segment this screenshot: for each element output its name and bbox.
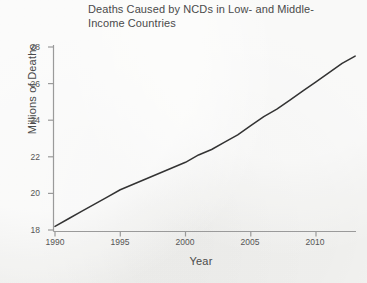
plot-area — [0, 0, 367, 283]
line-chart: Deaths Caused by NCDs in Low- and Middle… — [0, 0, 367, 283]
x-axis-ticks — [55, 232, 316, 237]
y-axis-ticks — [48, 47, 54, 230]
data-series-line — [55, 56, 355, 226]
